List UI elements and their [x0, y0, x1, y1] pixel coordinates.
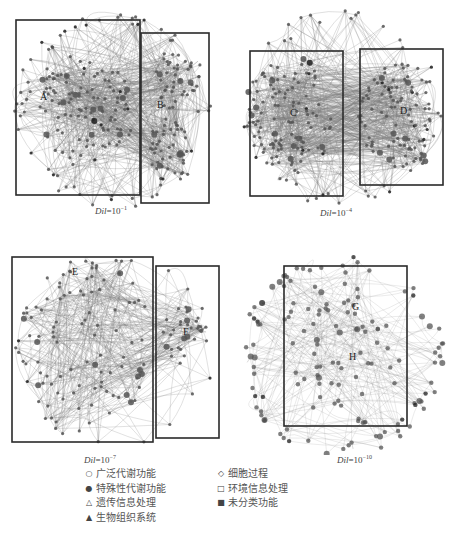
network-node: [288, 279, 292, 283]
network-node: [88, 421, 91, 424]
network-node: [71, 163, 74, 166]
network-node: [166, 167, 169, 170]
legend-item: ■未分类功能: [216, 496, 288, 511]
network-node: [274, 139, 277, 142]
network-node: [17, 128, 20, 131]
network-node: [168, 423, 171, 426]
network-node: [78, 138, 81, 141]
network-node: [128, 301, 131, 304]
network-node: [193, 89, 196, 92]
network-node: [305, 94, 308, 97]
panel-caption: Dil=10−1: [95, 205, 127, 216]
network-node: [401, 63, 404, 66]
network-node: [69, 114, 72, 117]
network-node: [277, 148, 280, 151]
network-node: [343, 282, 347, 286]
module-label: D: [400, 105, 407, 116]
network-node: [252, 98, 255, 101]
network-node: [285, 427, 289, 431]
network-node: [59, 34, 62, 37]
module-label: A: [40, 91, 48, 102]
network-node: [410, 89, 413, 92]
network-node: [109, 371, 112, 374]
network-node: [134, 205, 137, 208]
network-node: [411, 286, 415, 290]
network-node: [392, 79, 395, 82]
network-node: [61, 398, 64, 401]
network-node: [410, 120, 413, 123]
network-node: [299, 160, 302, 163]
network-node: [86, 90, 89, 93]
network-node: [370, 108, 373, 111]
network-node: [336, 399, 340, 403]
network-node: [173, 171, 176, 174]
network-node: [318, 289, 324, 295]
network-node: [300, 63, 303, 66]
network-node: [25, 98, 28, 101]
network-node: [111, 71, 114, 74]
caption-variable: Dil: [84, 455, 96, 465]
network-node: [39, 371, 42, 374]
network-node: [306, 439, 310, 443]
network-node: [386, 346, 390, 350]
network-node: [155, 70, 158, 73]
filled-square-icon: ■: [216, 496, 226, 511]
network-node: [309, 126, 312, 129]
network-node: [376, 327, 380, 331]
network-node: [355, 287, 359, 291]
network-node: [419, 399, 423, 403]
network-node: [260, 111, 263, 114]
network-node: [163, 89, 166, 92]
caption-exponent: −7: [110, 454, 116, 460]
network-node: [86, 139, 89, 142]
network-node: [257, 130, 260, 133]
network-node: [46, 276, 49, 279]
network-node: [398, 38, 401, 41]
network-edge: [21, 70, 23, 93]
network-node: [403, 78, 406, 81]
network-node: [110, 198, 113, 201]
network-node: [433, 390, 437, 394]
network-node: [403, 144, 406, 147]
network-node: [108, 142, 111, 145]
network-node: [160, 149, 163, 152]
network-node: [118, 140, 121, 143]
network-node: [277, 161, 280, 164]
network-node: [416, 67, 419, 70]
network-node: [311, 405, 315, 409]
legend-right: ◇细胞过程 □环境信息处理 ■未分类功能: [216, 467, 288, 511]
network-node: [115, 259, 118, 262]
network-node: [300, 146, 303, 149]
network-node: [92, 96, 95, 99]
network-node: [37, 335, 40, 338]
network-node: [271, 142, 274, 145]
network-node: [315, 114, 318, 117]
network-node: [301, 149, 304, 152]
network-node: [296, 382, 300, 386]
legend-item: △遗传信息处理: [84, 496, 166, 511]
legend-label: 生物组织系统: [96, 511, 156, 526]
network-node: [423, 391, 427, 395]
network-node: [175, 123, 178, 126]
network-node: [69, 260, 72, 263]
network-node: [101, 69, 104, 72]
caption-exponent: −10: [363, 454, 372, 460]
network-node: [314, 337, 320, 343]
network-node: [191, 392, 194, 395]
network-node: [316, 375, 322, 381]
network-node: [71, 150, 74, 153]
network-node: [362, 420, 366, 424]
network-node: [410, 86, 413, 89]
network-node: [398, 434, 402, 438]
network-node: [137, 367, 143, 373]
network-node: [171, 106, 174, 109]
network-node: [165, 71, 168, 74]
network-node: [93, 158, 96, 161]
network-node: [186, 173, 189, 176]
network-node: [133, 301, 136, 304]
network-node: [438, 354, 442, 358]
network-node: [80, 322, 83, 325]
network-node: [278, 432, 282, 436]
network-node: [261, 395, 265, 399]
panel-caption: Dil=10−10: [337, 454, 372, 465]
